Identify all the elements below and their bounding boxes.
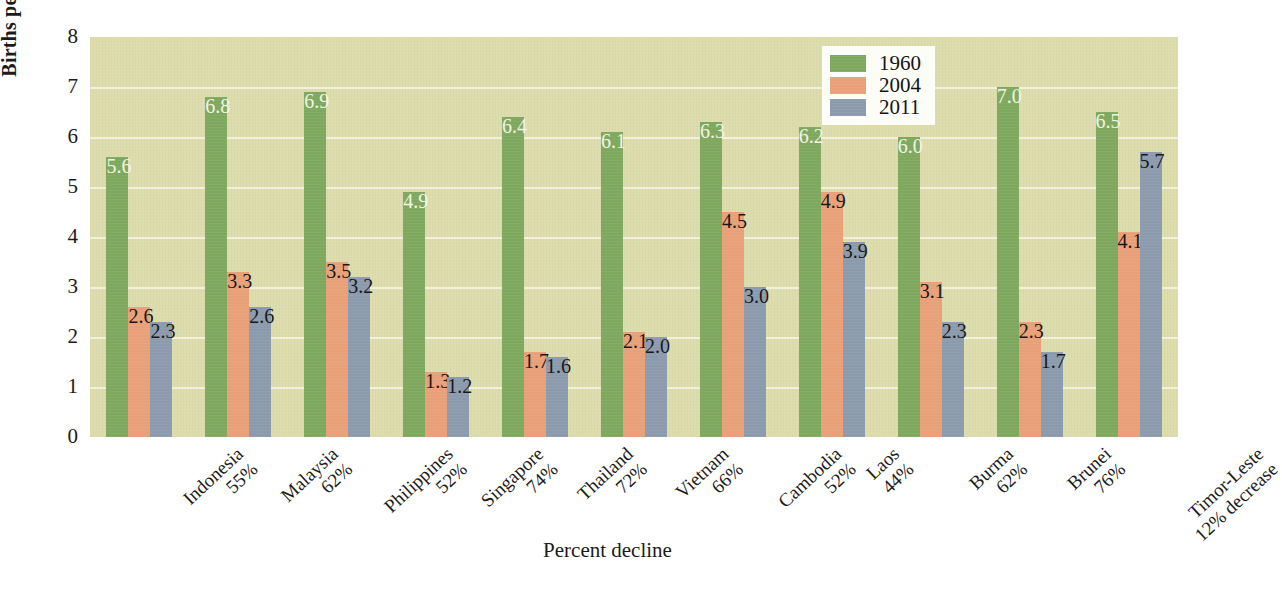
- bar[interactable]: 4.9: [821, 192, 843, 437]
- x-axis-tick-label: Burma62%: [964, 443, 1031, 509]
- bar[interactable]: 2.3: [942, 322, 964, 437]
- x-axis-tick-label: Timor-Leste12% decrease: [1177, 443, 1282, 546]
- legend-item[interactable]: 1960: [830, 53, 921, 74]
- x-axis-tick-label: Thailand72%: [573, 443, 651, 520]
- bar[interactable]: 3.5: [326, 262, 348, 437]
- bar-fill: [898, 137, 920, 437]
- bar[interactable]: 1.7: [1041, 352, 1063, 437]
- bar-value-label: 1.6: [546, 356, 584, 377]
- bar-fill: [601, 132, 623, 437]
- bar-value-label: 1.2: [447, 376, 485, 397]
- bar-group: 6.41.71.6: [502, 37, 568, 437]
- x-axis-tick-label: Brunei76%: [1063, 443, 1130, 509]
- bar[interactable]: 6.0: [898, 137, 920, 437]
- bar-value-label: 1.7: [1041, 351, 1079, 372]
- bar[interactable]: 3.3: [227, 272, 249, 437]
- bar[interactable]: 2.0: [645, 337, 667, 437]
- legend-label-2011: 2011: [879, 97, 920, 118]
- bar-value-label: 4.5: [722, 211, 760, 232]
- y-axis-tick-label: 7: [48, 76, 78, 97]
- bar-fill: [1118, 232, 1140, 437]
- bar-value-label: 3.0: [744, 286, 782, 307]
- legend-item[interactable]: 2004: [830, 75, 921, 96]
- y-axis-tick-label: 4: [48, 226, 78, 247]
- bar[interactable]: 5.7: [1140, 152, 1162, 437]
- bar[interactable]: 7.0: [997, 87, 1019, 437]
- legend-swatch-2004: [830, 77, 866, 94]
- bar-value-label: 3.2: [348, 276, 386, 297]
- y-axis-tick-label: 1: [48, 376, 78, 397]
- bar-fill: [348, 277, 370, 437]
- bar[interactable]: 1.6: [546, 357, 568, 437]
- y-axis-tick-label: 3: [48, 276, 78, 297]
- bar[interactable]: 6.5: [1096, 112, 1118, 437]
- bar-fill: [1140, 152, 1162, 437]
- bar-fill: [700, 122, 722, 437]
- bar-group: 6.12.12.0: [601, 37, 667, 437]
- x-axis-tick-label: Indonesia55%: [179, 443, 262, 524]
- bar[interactable]: 1.7: [524, 352, 546, 437]
- legend-label-2004: 2004: [879, 75, 921, 96]
- x-axis-tick-label: Laos44%: [862, 443, 918, 499]
- bar-fill: [106, 157, 128, 437]
- bar-fill: [403, 192, 425, 437]
- bar[interactable]: 2.3: [150, 322, 172, 437]
- bar-value-label: 5.6: [106, 156, 144, 177]
- bar-fill: [821, 192, 843, 437]
- y-axis-tick-label: 2: [48, 326, 78, 347]
- y-axis-title: Births per woman: [0, 0, 21, 118]
- bar[interactable]: 4.1: [1118, 232, 1140, 437]
- x-axis-tick-label: Cambodia52%: [774, 443, 860, 527]
- x-axis-tick-label: Philippines52%: [380, 443, 472, 532]
- bar-value-label: 6.9: [304, 91, 342, 112]
- bar-value-label: 7.0: [997, 86, 1035, 107]
- bar-group: 6.34.53.0: [700, 37, 766, 437]
- bar-fill: [227, 272, 249, 437]
- bar-value-label: 5.7: [1140, 151, 1178, 172]
- bar[interactable]: 2.1: [623, 332, 645, 437]
- legend: 1960 2004 2011: [822, 46, 935, 125]
- y-axis-tick-label: 5: [48, 176, 78, 197]
- legend-label-1960: 1960: [879, 53, 921, 74]
- bar[interactable]: 3.2: [348, 277, 370, 437]
- bar[interactable]: 4.5: [722, 212, 744, 437]
- bar-fill: [1096, 112, 1118, 437]
- bar-value-label: 6.0: [898, 136, 936, 157]
- bar-group: 4.91.31.2: [403, 37, 469, 437]
- bar[interactable]: 2.6: [249, 307, 271, 437]
- bar[interactable]: 6.2: [799, 127, 821, 437]
- bar[interactable]: 3.0: [744, 287, 766, 437]
- bar[interactable]: 6.4: [502, 117, 524, 437]
- bar[interactable]: 6.8: [205, 97, 227, 437]
- y-axis-tick-label: 8: [48, 26, 78, 47]
- plot-area: 5.62.62.36.83.32.66.93.53.24.91.31.26.41…: [90, 37, 1178, 437]
- x-axis-tick-label: Vietnam66%: [671, 443, 747, 518]
- legend-item[interactable]: 2011: [830, 97, 921, 118]
- bar[interactable]: 3.1: [920, 282, 942, 437]
- bar-fill: [722, 212, 744, 437]
- bar-group: 5.62.62.3: [106, 37, 172, 437]
- bar-value-label: 2.6: [249, 306, 287, 327]
- y-axis-tick-label: 0: [48, 426, 78, 447]
- bar[interactable]: 1.2: [447, 377, 469, 437]
- bar-value-label: 6.1: [601, 131, 639, 152]
- bar[interactable]: 5.6: [106, 157, 128, 437]
- bar-fill: [205, 97, 227, 437]
- bar-group: 7.02.31.7: [997, 37, 1063, 437]
- bar-value-label: 2.3: [150, 321, 188, 342]
- bar-fill: [502, 117, 524, 437]
- x-axis-tick-label: Singapore74%: [477, 443, 562, 527]
- bar-value-label: 3.9: [843, 241, 881, 262]
- bar[interactable]: 6.1: [601, 132, 623, 437]
- bar-fill: [799, 127, 821, 437]
- bar[interactable]: 4.9: [403, 192, 425, 437]
- bar-fill: [744, 287, 766, 437]
- bar[interactable]: 1.3: [425, 372, 447, 437]
- bar[interactable]: 6.9: [304, 92, 326, 437]
- bar[interactable]: 3.9: [843, 242, 865, 437]
- bar[interactable]: 6.3: [700, 122, 722, 437]
- bar[interactable]: 2.3: [1019, 322, 1041, 437]
- bar[interactable]: 2.6: [128, 307, 150, 437]
- bar-fill: [843, 242, 865, 437]
- bar-group: 6.54.15.7: [1096, 37, 1162, 437]
